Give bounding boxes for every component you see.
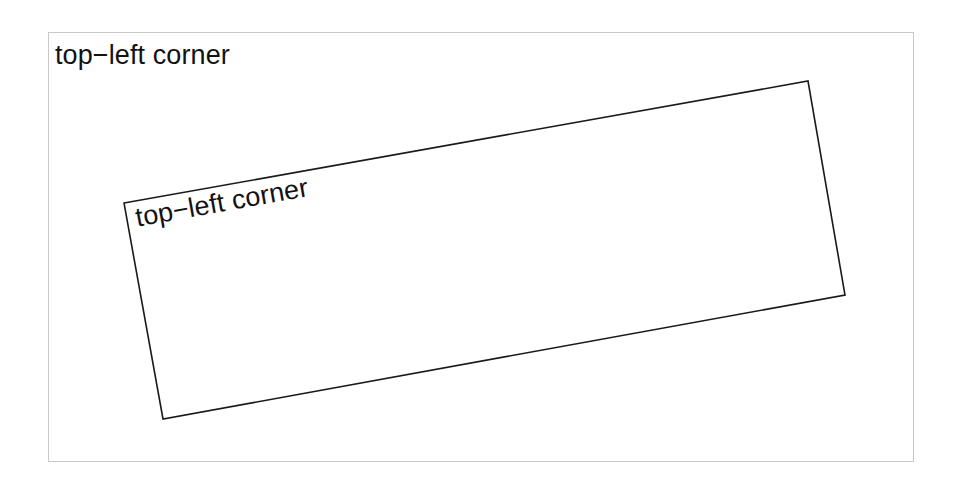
figure-canvas: top−left corner top−left corner <box>0 0 963 490</box>
axes-top-left-corner-label: top−left corner <box>55 40 230 71</box>
outer-frame-border <box>48 32 914 462</box>
